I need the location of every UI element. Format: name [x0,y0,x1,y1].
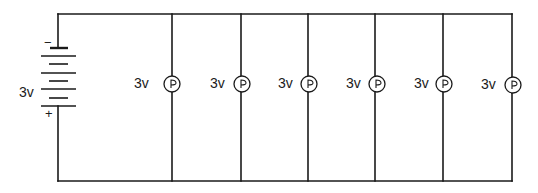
bulb-icon [369,76,385,92]
bulb-icon [164,76,180,92]
bulb-voltage-label: 3v [414,76,429,90]
battery-voltage-label: 3v [19,85,34,99]
battery-icon [41,48,76,106]
bulb-icon [234,76,250,92]
branch-wires [172,14,512,181]
wires [58,14,512,181]
battery-negative-sign: − [44,36,52,49]
bulb-voltage-label: 3v [210,76,225,90]
bulb-icon [301,76,317,92]
bulb-voltage-label: 3v [346,76,361,90]
bulb-icon [505,77,521,93]
bulb-voltage-label: 3v [278,76,293,90]
bulb-icon [436,76,452,92]
battery-positive-sign: + [45,107,53,120]
circuit-diagram [0,0,538,193]
bulb-voltage-label: 3v [134,76,149,90]
bulb-voltage-label: 3v [481,77,496,91]
